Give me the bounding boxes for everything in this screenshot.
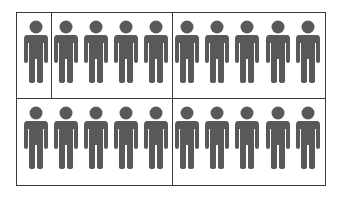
person-icon	[295, 105, 321, 169]
person-icon	[204, 105, 230, 169]
horizontal-divider	[16, 98, 326, 99]
vertical-divider	[172, 98, 173, 186]
person-icon	[265, 19, 291, 83]
person-icon	[174, 105, 200, 169]
person-icon	[143, 105, 169, 169]
person-icon	[53, 19, 79, 83]
person-icon	[53, 105, 79, 169]
person-icon	[234, 105, 260, 169]
person-icon	[295, 19, 321, 83]
person-icon	[83, 105, 109, 169]
person-icon	[83, 19, 109, 83]
person-icon	[234, 19, 260, 83]
person-icon	[113, 19, 139, 83]
person-icon	[174, 19, 200, 83]
person-icon	[23, 19, 49, 83]
person-icon	[265, 105, 291, 169]
vertical-divider	[51, 12, 52, 98]
vertical-divider	[172, 12, 173, 98]
person-icon	[143, 19, 169, 83]
person-icon	[204, 19, 230, 83]
person-icon	[23, 105, 49, 169]
person-icon	[113, 105, 139, 169]
